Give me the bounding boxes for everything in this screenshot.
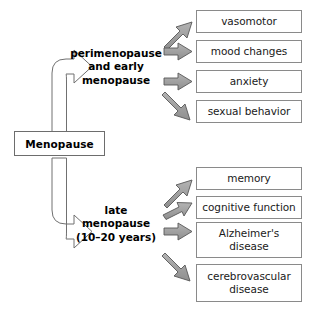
outcome-box-cognitive-function: cognitive function [196,196,302,219]
root-node-label: Menopause [25,138,94,150]
outcome-label: vasomotor [221,15,277,28]
outcome-label: anxiety [230,75,269,88]
arrow-late-to-memory [164,180,192,208]
outcome-box-mood-changes: mood changes [196,40,302,63]
outcome-label: mood changes [211,45,288,58]
root-node-menopause: Menopause [14,131,105,156]
outcome-label: sexual behavior [208,105,291,118]
outcome-label: memory [227,172,271,185]
arrow-late-to-cerebrovascular-disease [162,253,190,281]
stage-label-early: perimenopause and early menopause [66,41,166,93]
outcome-box-alzheimers-disease: Alzheimer's disease [196,222,302,258]
outcome-box-cerebrovascular-disease: cerebrovascular disease [196,264,302,302]
outcome-box-memory: memory [196,167,302,190]
menopause-outcomes-diagram: Menopause perimenopause and early menopa… [0,0,313,315]
outcome-box-sexual-behavior: sexual behavior [196,100,302,123]
arrow-late-to-alzheimers-disease [164,223,192,240]
outcome-label: cognitive function [202,201,295,214]
arrow-early-to-vasomotor [164,22,192,50]
outcome-box-vasomotor: vasomotor [196,10,302,33]
outcome-box-anxiety: anxiety [196,70,302,93]
stage-label-late: late menopause (10–20 years) [64,198,168,250]
arrow-early-to-anxiety [164,73,192,90]
arrow-early-to-sexual-behavior [162,92,190,120]
arrow-early-to-mood-changes [164,43,192,60]
